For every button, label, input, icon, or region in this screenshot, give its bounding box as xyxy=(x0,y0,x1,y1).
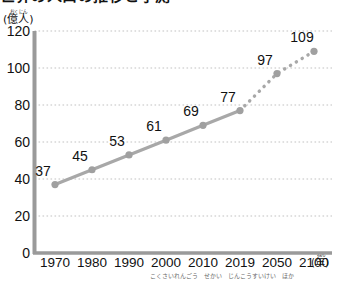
source-caption-cutoff: こくさいれんごう せかい じんこうすいけい ほか xyxy=(150,272,342,282)
y-axis-tick-labels: 020406080100120 xyxy=(7,23,31,261)
y-axis-tick: 60 xyxy=(14,134,30,150)
x-axis-tick: 2000 xyxy=(151,255,181,270)
x-axis-tick: 2100 xyxy=(299,255,329,270)
data-point-marker xyxy=(88,166,95,173)
source-caption: こくさいれんごう せかい じんこうすいけい ほか xyxy=(150,272,342,280)
data-point-marker xyxy=(310,48,317,55)
x-axis-tick: 1990 xyxy=(114,255,144,270)
data-point-marker xyxy=(125,151,132,158)
data-point-marker xyxy=(51,181,58,188)
data-point-label: 77 xyxy=(220,89,236,105)
y-axis-tick: 20 xyxy=(14,208,30,224)
x-axis-tick-labels: 19701980199020002010201920502100 xyxy=(40,255,329,270)
data-point-marker xyxy=(162,137,169,144)
gridlines xyxy=(35,31,333,253)
data-point-label: 53 xyxy=(109,133,125,149)
x-axis-tick: 1970 xyxy=(40,255,70,270)
x-axis-tick: 2050 xyxy=(262,255,292,270)
y-axis-tick: 120 xyxy=(7,23,31,39)
y-axis-tick: 0 xyxy=(22,245,30,261)
data-point-marker xyxy=(273,70,280,77)
data-point-label: 45 xyxy=(72,148,88,164)
data-point-label: 109 xyxy=(290,29,314,45)
x-axis-tick: 2019 xyxy=(225,255,255,270)
y-axis-tick: 100 xyxy=(7,60,31,76)
population-line-chart: 世界の人口の推移と予測 おくにん (億人) ねん (年) 02040608010… xyxy=(0,0,342,282)
y-axis-tick: 80 xyxy=(14,97,30,113)
plot-area: 020406080100120 197019801990200020102019… xyxy=(0,0,342,282)
data-point-labels: 37455361697797109 xyxy=(35,29,314,178)
x-axis-tick: 2010 xyxy=(188,255,218,270)
data-point-label: 37 xyxy=(35,163,51,179)
series-projection-line xyxy=(240,51,314,110)
data-point-marker xyxy=(199,122,206,129)
data-point-label: 69 xyxy=(183,103,199,119)
projection-line-path xyxy=(240,51,314,110)
data-point-label: 97 xyxy=(257,52,273,68)
data-point-marker xyxy=(236,107,243,114)
y-axis-tick: 40 xyxy=(14,171,30,187)
x-axis-tick: 1980 xyxy=(77,255,107,270)
data-point-label: 61 xyxy=(146,118,162,134)
